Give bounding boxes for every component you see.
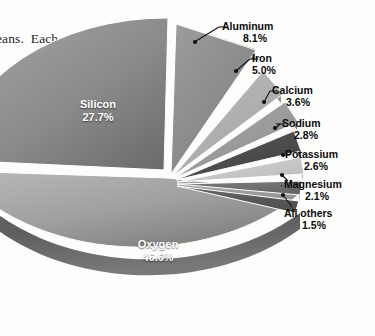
callout-all-others-name: All others bbox=[284, 207, 375, 219]
callout-label-iron: Iron 5.0% bbox=[252, 52, 332, 76]
callout-iron-name: Iron bbox=[252, 52, 332, 64]
anchor-dot-aluminum bbox=[193, 40, 197, 44]
callout-label-sodium: Sodium 2.8% bbox=[282, 117, 368, 141]
callout-iron-value: 5.0% bbox=[252, 64, 332, 76]
callout-magnesium-value: 2.1% bbox=[284, 190, 350, 202]
anchor-dot-sodium bbox=[273, 126, 277, 130]
callout-label-calcium: Calcium 3.6% bbox=[272, 84, 362, 108]
callout-aluminum-value: 8.1% bbox=[222, 32, 288, 44]
callout-magnesium-name: Magnesium bbox=[284, 178, 375, 190]
callout-calcium-value: 3.6% bbox=[272, 96, 324, 108]
callout-all-others-value: 1.5% bbox=[284, 219, 344, 231]
callout-sodium-value: 2.8% bbox=[282, 129, 330, 141]
pie-chart: Silicon 27.7% Oxygen 46.6% Aluminum 8.1%… bbox=[0, 0, 375, 336]
callout-sodium-name: Sodium bbox=[282, 117, 368, 129]
callout-label-aluminum: Aluminum 8.1% bbox=[222, 20, 322, 44]
callout-aluminum-name: Aluminum bbox=[222, 20, 322, 32]
figure-page: eans. Each hysical used st bbox=[0, 0, 375, 336]
callout-potassium-value: 2.6% bbox=[285, 160, 347, 172]
callout-potassium-name: Potassium bbox=[285, 148, 375, 160]
anchor-dot-calcium bbox=[262, 100, 266, 104]
callout-label-potassium: Potassium 2.6% bbox=[285, 148, 375, 172]
callout-label-all-others: All others 1.5% bbox=[284, 207, 375, 231]
callout-label-magnesium: Magnesium 2.1% bbox=[284, 178, 375, 202]
pie-slice-silicon[interactable] bbox=[0, 18, 168, 170]
anchor-dot-iron bbox=[234, 69, 238, 73]
callout-calcium-name: Calcium bbox=[272, 84, 362, 96]
